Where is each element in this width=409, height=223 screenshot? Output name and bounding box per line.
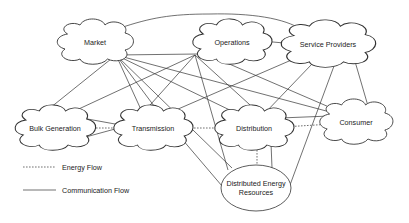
smart-grid-diagram: Market Operations Service Providers Bulk… bbox=[0, 0, 409, 223]
node-label-market: Market bbox=[84, 38, 106, 47]
node-label-transmission: Transmission bbox=[132, 124, 174, 133]
node-label-operations: Operations bbox=[214, 38, 250, 47]
legend: Energy Flow Communication Flow bbox=[23, 163, 130, 195]
node-label-service-providers: Service Providers bbox=[300, 40, 357, 49]
legend-energy-label: Energy Flow bbox=[62, 163, 103, 172]
node-label-bulk-generation: Bulk Generation bbox=[29, 124, 81, 133]
node-label-der-line2: Resources bbox=[239, 188, 274, 197]
legend-communication-label: Communication Flow bbox=[62, 186, 130, 195]
node-label-distribution: Distribution bbox=[236, 124, 272, 133]
node-label-der-line1: Distributed Energy bbox=[226, 179, 286, 188]
node-label-consumer: Consumer bbox=[339, 118, 373, 127]
